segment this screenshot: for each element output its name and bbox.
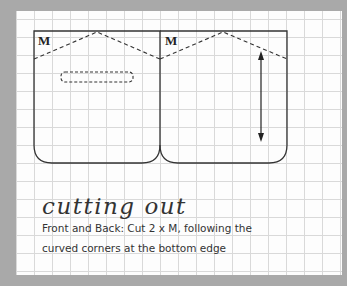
pocket-slot-outline (61, 72, 133, 82)
grain-line-arrow-icon (258, 51, 264, 142)
section-heading: cutting out (42, 193, 187, 219)
dashed-fold-line-left (34, 32, 160, 59)
piece-label-back: M (165, 33, 177, 49)
dashed-fold-line-right (160, 32, 287, 59)
instruction-line-1: Front and Back: Cut 2 x M, following the (42, 222, 252, 234)
pattern-piece-back (160, 31, 287, 163)
instruction-line-2: curved corners at the bottom edge (42, 242, 226, 254)
pattern-piece-front (34, 31, 160, 163)
piece-label-front: M (38, 33, 50, 49)
